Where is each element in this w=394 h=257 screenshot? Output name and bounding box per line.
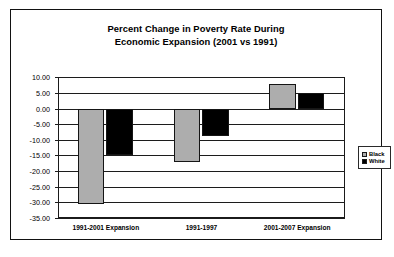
y-axis-tick-mark bbox=[55, 109, 59, 110]
y-axis-tick-label: -10.00 bbox=[6, 136, 50, 145]
chart-title: Percent Change in Poverty Rate During Ec… bbox=[11, 23, 381, 48]
y-axis-tick-label: -35.00 bbox=[6, 214, 50, 223]
y-axis-tick-label: -30.00 bbox=[6, 198, 50, 207]
bar-white-2 bbox=[298, 93, 325, 108]
y-axis-tick-mark bbox=[55, 93, 59, 94]
y-axis-tick-mark bbox=[55, 124, 59, 125]
chart-legend: BlackWhite bbox=[358, 146, 391, 169]
y-axis-tick-mark bbox=[55, 218, 59, 219]
plot-area: 10.005.000.00-5.00-10.00-15.00-20.00-25.… bbox=[58, 68, 345, 220]
x-axis-tick-label: 1991-1997 bbox=[154, 224, 250, 231]
y-axis-tick-label: 10.00 bbox=[6, 73, 50, 82]
bar-black-2 bbox=[269, 84, 296, 108]
y-axis-tick-mark bbox=[55, 140, 59, 141]
y-axis-tick-mark bbox=[55, 187, 59, 188]
y-axis-tick-mark bbox=[55, 202, 59, 203]
chart-figure: Percent Change in Poverty Rate During Ec… bbox=[10, 9, 382, 240]
legend-label: White bbox=[369, 158, 385, 164]
bar-black-1 bbox=[174, 109, 201, 162]
y-axis-tick-label: -25.00 bbox=[6, 183, 50, 192]
legend-label: Black bbox=[369, 151, 384, 157]
y-axis-tick-label: -15.00 bbox=[6, 151, 50, 160]
bar-black-0 bbox=[78, 109, 105, 204]
y-axis-tick-label: 0.00 bbox=[6, 105, 50, 114]
y-axis-tick-label: -20.00 bbox=[6, 167, 50, 176]
legend-item-white: White bbox=[362, 158, 388, 164]
gridline bbox=[58, 77, 345, 78]
chart-title-line-2: Economic Expansion (2001 vs 1991) bbox=[11, 36, 381, 49]
legend-item-black: Black bbox=[362, 151, 388, 157]
legend-swatch-icon bbox=[362, 159, 367, 164]
y-axis-tick-label: 5.00 bbox=[6, 89, 50, 98]
y-axis-tick-mark bbox=[55, 155, 59, 156]
y-axis-tick-mark bbox=[55, 77, 59, 78]
y-axis-tick-mark bbox=[55, 171, 59, 172]
bar-white-1 bbox=[202, 109, 229, 136]
x-axis-tick-label: 2001-2007 Expansion bbox=[249, 224, 345, 231]
x-axis-tick-label: 1991-2001 Expansion bbox=[58, 224, 154, 231]
gridline bbox=[58, 218, 345, 219]
y-axis-tick-label: -5.00 bbox=[6, 120, 50, 129]
chart-title-line-1: Percent Change in Poverty Rate During bbox=[11, 23, 381, 36]
bar-white-0 bbox=[106, 109, 133, 155]
legend-swatch-icon bbox=[362, 152, 367, 157]
